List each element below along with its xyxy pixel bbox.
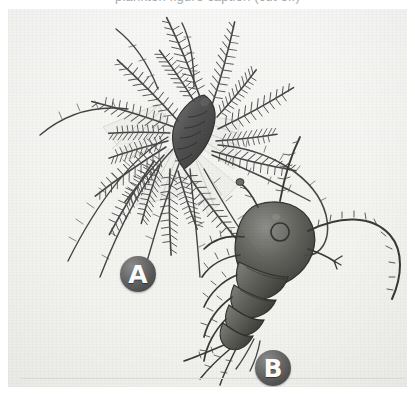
specimen-a-body [173,95,216,169]
illustration-plate: A B [8,9,407,387]
plate-bottom-rule [20,378,405,379]
label-badge-a-text: A [128,262,147,287]
label-badge-a: A [120,256,156,292]
label-badge-b-text: B [263,356,282,381]
figure-root: plankton figure caption (cut off) [0,0,415,403]
caption-cutoff-strip: plankton figure caption (cut off) [0,0,415,9]
label-badge-b: B [255,350,291,386]
plankton-illustration [8,9,407,387]
caption-text: plankton figure caption (cut off) [0,0,415,4]
